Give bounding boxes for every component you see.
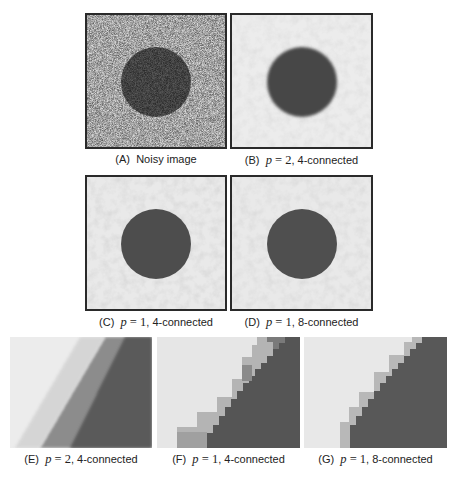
caption-b-eq: =: [272, 153, 285, 167]
caption-f-conn: , 4-connected: [218, 453, 285, 465]
caption-e-conn: , 4-connected: [71, 453, 138, 465]
caption-e-label: (E): [24, 453, 39, 465]
panel-e-zoom-p2-4conn: [10, 337, 152, 448]
caption-f: (F) p = 1, 4-connected: [157, 452, 300, 467]
caption-b-label: (B): [245, 154, 260, 166]
caption-d-conn: , 8-connected: [292, 316, 359, 328]
caption-g-conn: , 8-connected: [366, 453, 433, 465]
caption-d-eq: =: [272, 315, 285, 329]
caption-g-eq: =: [347, 452, 360, 466]
caption-c-conn: , 4-connected: [146, 316, 213, 328]
panel-c-p1-4conn: [85, 175, 227, 311]
caption-c-eq: =: [127, 315, 140, 329]
caption-d-label: (D): [245, 316, 260, 328]
caption-g-label: (G): [318, 453, 334, 465]
panel-f-zoom-p1-4conn: [157, 337, 300, 448]
caption-a-label: (A): [115, 153, 130, 165]
caption-e: (E) p = 2, 4-connected: [10, 452, 152, 467]
panel-d-p1-8conn: [230, 175, 373, 311]
caption-g: (G) p = 1, 8-connected: [304, 452, 447, 467]
caption-e-eq: =: [51, 452, 64, 466]
caption-f-label: (F): [172, 453, 186, 465]
caption-f-eq: =: [199, 452, 212, 466]
caption-a: (A) Noisy image: [85, 153, 227, 165]
caption-a-text: Noisy image: [136, 153, 197, 165]
caption-b-conn: , 4-connected: [291, 154, 358, 166]
caption-d: (D) p = 1, 8-connected: [230, 315, 373, 330]
caption-b: (B) p = 2, 4-connected: [230, 153, 373, 168]
caption-c: (C) p = 1, 4-connected: [85, 315, 227, 330]
panel-g-zoom-p1-8conn: [304, 337, 447, 448]
caption-c-label: (C): [99, 316, 114, 328]
panel-a-noisy-image: [85, 13, 227, 149]
panel-b-p2-4conn: [230, 13, 373, 149]
